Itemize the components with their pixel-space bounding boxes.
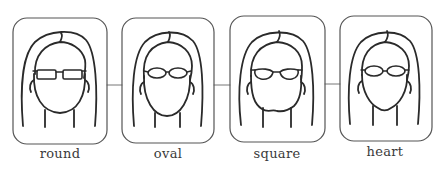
label-round: round (12, 146, 108, 161)
heart-face-icon (349, 31, 420, 125)
panel-frame (230, 16, 325, 142)
label-oval: oval (120, 146, 216, 161)
label-square: square (229, 146, 325, 161)
panel-square (230, 16, 325, 142)
panel-heart (340, 16, 432, 141)
label-heart: heart (337, 144, 433, 159)
panel-frame (13, 18, 107, 144)
round-face-icon (22, 32, 96, 127)
oval-face-icon (133, 32, 203, 127)
square-face-icon (239, 31, 313, 127)
panel-oval (122, 18, 214, 143)
panel-frame (122, 18, 214, 143)
panel-round (13, 18, 107, 144)
